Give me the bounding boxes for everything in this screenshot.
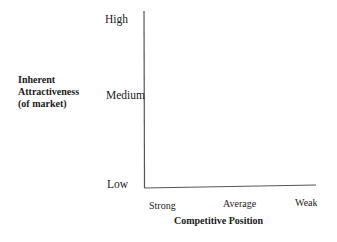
y-tick-medium: Medium xyxy=(106,89,145,101)
x-axis-line xyxy=(145,185,317,188)
x-tick-average: Average xyxy=(223,198,256,209)
y-axis-label-line-3: (of market) xyxy=(18,98,79,110)
x-tick-strong: Strong xyxy=(149,200,176,211)
y-axis-label-line-1: Inherent xyxy=(18,74,79,86)
y-axis-label: Inherent Attractiveness (of market) xyxy=(18,74,79,110)
x-tick-weak: Weak xyxy=(295,197,318,208)
x-axis-label: Competitive Position xyxy=(174,215,263,226)
y-tick-high: High xyxy=(105,13,128,25)
y-tick-low: Low xyxy=(107,178,128,190)
y-axis-label-line-2: Attractiveness xyxy=(18,86,79,98)
